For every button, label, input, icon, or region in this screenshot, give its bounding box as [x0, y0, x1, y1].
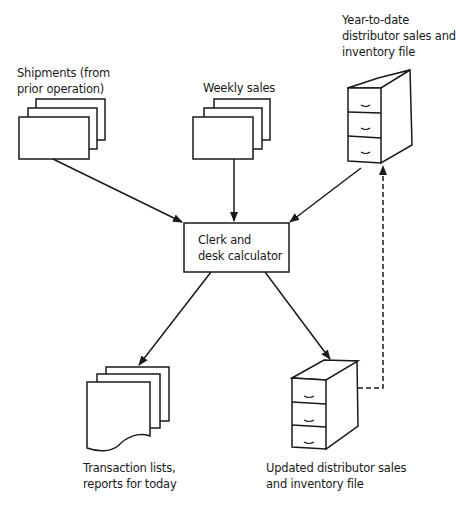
ytd-file-label-line: Year-to-date: [342, 12, 456, 28]
edge-updated-to-ytd-dashed: [358, 166, 383, 388]
updated-file-label-line: and inventory file: [266, 476, 406, 492]
edge-ytd-to-clerk: [290, 168, 361, 222]
shipments-document-stack-icon: [19, 99, 105, 159]
updated-file-cabinet-icon: [292, 360, 358, 449]
clerk-label-line: Clerk and: [198, 232, 282, 248]
transaction-lists-label-line: Transaction lists,: [83, 460, 177, 476]
transaction-lists-label: Transaction lists, reports for today: [83, 460, 177, 492]
clerk-label: Clerk and desk calculator: [198, 232, 282, 264]
shipments-label-line: prior operation): [17, 81, 110, 97]
transaction-lists-torn-document-icon: [87, 367, 169, 451]
ytd-file-label: Year-to-date distributor sales and inven…: [342, 12, 456, 60]
shipments-label-line: Shipments (from: [17, 65, 110, 81]
ytd-file-label-line: inventory file: [342, 44, 456, 60]
transaction-lists-label-line: reports for today: [83, 476, 177, 492]
ytd-file-label-line: distributor sales and: [342, 28, 456, 44]
updated-file-label-line: Updated distributor sales: [266, 460, 406, 476]
edge-shipments-to-clerk: [53, 159, 182, 222]
shipments-label: Shipments (from prior operation): [17, 65, 110, 97]
clerk-label-line: desk calculator: [198, 248, 282, 264]
updated-file-label: Updated distributor sales and inventory …: [266, 460, 406, 492]
weekly-sales-label-line: Weekly sales: [203, 80, 275, 96]
weekly-sales-label: Weekly sales: [203, 80, 275, 96]
edge-clerk-to-transactions: [139, 272, 211, 365]
edge-clerk-to-updated-file: [265, 272, 330, 359]
ytd-file-cabinet-icon: [348, 70, 412, 163]
weekly-sales-document-stack-icon: [193, 99, 270, 159]
